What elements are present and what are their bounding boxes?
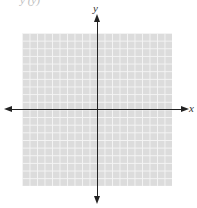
y-axis-line [97, 20, 98, 198]
y-axis-label: y [93, 2, 98, 14]
y-axis-down-arrow-icon [94, 196, 100, 204]
x-axis-left-arrow-icon [4, 106, 12, 112]
x-axis-line [8, 109, 182, 110]
x-axis-label: x [189, 102, 194, 114]
x-axis-right-arrow-icon [181, 106, 189, 112]
cut-off-header-text: y (y) [20, 0, 40, 6]
y-axis-up-arrow-icon [94, 14, 100, 22]
